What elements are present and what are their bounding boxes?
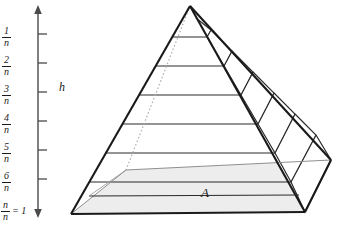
axis-arrow-bottom (34, 209, 42, 218)
axis-tick-label-4: 4 n (2, 113, 11, 135)
axis-arrow-top (34, 5, 42, 14)
axis-tick-label-7: n n = 1 (1, 200, 26, 222)
height-axis (34, 5, 47, 218)
axis-ticks (38, 34, 47, 179)
height-axis-label: h (59, 80, 65, 95)
axis-tick-label-1: 1 n (2, 26, 11, 48)
pyramid-diagram (0, 0, 340, 229)
axis-tick-equals: = 1 (10, 206, 26, 216)
axis-tick-label-5: 5 n (2, 142, 11, 164)
axis-tick-label-2: 2 n (2, 55, 11, 77)
hidden-back-edge (126, 6, 190, 170)
axis-tick-label-6: 6 n (2, 171, 11, 193)
axis-tick-label-3: 3 n (2, 84, 11, 106)
base-area-label: A (201, 185, 209, 201)
